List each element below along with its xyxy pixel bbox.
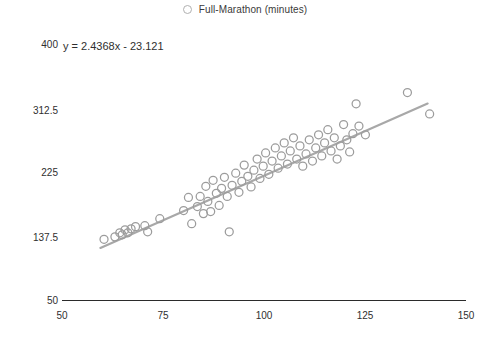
scatter-chart: Full-Marathon (minutes) y = 2.4368x - 23… (0, 0, 490, 342)
data-point (262, 149, 270, 157)
data-point (232, 169, 240, 177)
data-point (202, 182, 210, 190)
data-point (250, 166, 258, 174)
data-points-group (100, 89, 434, 244)
data-point (352, 100, 360, 108)
data-point (327, 147, 335, 155)
data-point (305, 136, 313, 144)
data-point (280, 139, 288, 147)
data-point (207, 208, 215, 216)
data-point (247, 183, 255, 191)
data-point (271, 144, 279, 152)
data-point (188, 220, 196, 228)
trendline (100, 104, 427, 248)
data-point (223, 192, 231, 200)
data-point (196, 192, 204, 200)
data-point (100, 235, 108, 243)
data-point (403, 89, 411, 97)
data-point (220, 173, 228, 181)
data-point (240, 161, 248, 169)
data-point (209, 176, 217, 184)
data-point (225, 228, 233, 236)
data-point (253, 155, 261, 163)
data-point (340, 121, 348, 129)
data-point (215, 201, 223, 209)
data-point (312, 144, 320, 152)
data-point (289, 134, 297, 142)
data-point (330, 134, 338, 142)
data-point (308, 157, 316, 165)
data-point (286, 147, 294, 155)
data-point (315, 131, 323, 139)
data-point (296, 142, 304, 150)
data-point (259, 162, 267, 170)
data-point (218, 184, 226, 192)
data-point (333, 155, 341, 163)
data-point (321, 139, 329, 147)
data-point (299, 162, 307, 170)
data-point (346, 148, 354, 156)
data-point (235, 188, 243, 196)
data-point (244, 172, 252, 180)
data-point (324, 126, 332, 134)
data-point (318, 152, 326, 160)
data-point (355, 122, 363, 130)
data-point (268, 157, 276, 165)
data-point (228, 181, 236, 189)
data-point (277, 152, 285, 160)
plot-area (0, 0, 490, 342)
data-point (426, 110, 434, 118)
data-point (184, 193, 192, 201)
